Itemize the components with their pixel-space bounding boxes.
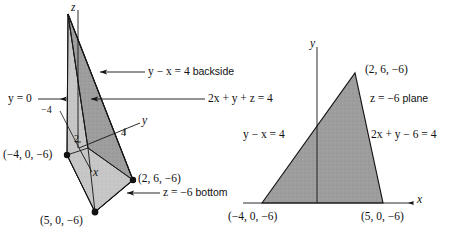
vertex-label-apex-2d: (2, 6, −6) xyxy=(365,63,408,76)
label-left-edge-equation: y − x = 4 xyxy=(243,128,285,141)
axis-label-z-3d: z xyxy=(71,1,75,14)
vertex-label-bottom-right-2d: (5, 0, −6) xyxy=(361,210,404,223)
axis-label-y-3d: y xyxy=(142,114,147,127)
label-backside-equation: y − x = 4 xyxy=(148,65,190,77)
label-plane-word: plane xyxy=(403,92,429,104)
vertex-label-bottom-left-2d: (−4, 0, −6) xyxy=(228,210,277,223)
vertex-label-two-six-minus-six-3d: (2, 6, −6) xyxy=(138,172,181,185)
axis-label-x-2d: x xyxy=(417,193,422,206)
axis-label-x-3d: x xyxy=(93,166,98,179)
tick-label-minus-four: −4 xyxy=(41,104,52,115)
diagram-vector-layer xyxy=(0,0,450,238)
label-z-equals-minus-six-plane: z = −6 plane xyxy=(370,92,428,105)
label-backside-word: backside xyxy=(193,65,234,77)
label-bottom-equation: z = −6 xyxy=(163,186,193,198)
label-bottom-plane: z = −6 bottom xyxy=(163,186,228,199)
label-backside-plane: y − x = 4 backside xyxy=(148,65,234,78)
tick-label-two: 2 xyxy=(74,133,79,144)
vertex-label-minus-four-zero-minus-six-3d: (−4, 0, −6) xyxy=(3,148,52,161)
vertex-label-five-zero-minus-six-3d: (5, 0, −6) xyxy=(40,214,83,227)
label-slant-plane: 2x + y + z = 4 xyxy=(208,92,273,105)
label-right-edge-equation: 2x + y − 6 = 4 xyxy=(371,128,436,141)
tick-label-four: 4 xyxy=(121,127,126,138)
label-y-equals-zero: y = 0 xyxy=(8,92,32,105)
figure-canvas: z y x −4 2 4 y − x = 4 backside 2x + y +… xyxy=(0,0,450,238)
axis-label-y-2d: y xyxy=(310,37,315,50)
label-plane-equation: z = −6 xyxy=(370,92,400,104)
label-bottom-word: bottom xyxy=(196,186,228,198)
